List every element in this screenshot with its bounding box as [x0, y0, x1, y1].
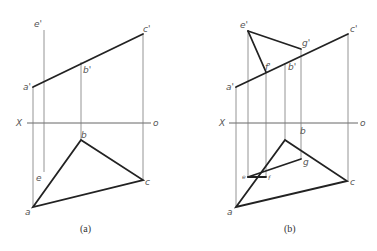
label-f-prime: f' [265, 62, 271, 72]
label-c-prime: c' [350, 24, 357, 34]
projection-diagram: X o e' c' b' a' b c a e (a) X o [0, 0, 377, 251]
label-b-prime: b' [288, 62, 296, 72]
label-c-prime: c' [143, 24, 150, 34]
panel-b: X o e' g' c' f' b' a' b g e f c a (b) [218, 20, 366, 235]
label-g: g [303, 157, 309, 167]
label-g-prime: g' [302, 38, 310, 48]
caption-a: (a) [80, 223, 91, 235]
label-e-prime: e' [240, 20, 248, 30]
x-axis-label: X [218, 118, 226, 128]
label-c: c [350, 177, 355, 187]
label-e: e [242, 173, 246, 180]
label-c: c [145, 177, 150, 187]
line-e-prime-g-prime [248, 31, 301, 49]
label-a-prime: a' [23, 82, 31, 92]
caption-b: (b) [284, 223, 296, 235]
panel-a: X o e' c' b' a' b c a e (a) [15, 19, 159, 235]
label-a-prime: a' [226, 82, 234, 92]
triangle-abc [236, 140, 347, 207]
x-axis-label: X [15, 118, 23, 128]
label-a: a [25, 207, 31, 217]
label-b: b [81, 130, 87, 140]
triangle-abc [33, 140, 143, 207]
label-f: f [268, 174, 271, 181]
label-e-prime: e' [34, 19, 42, 29]
label-e: e [36, 173, 42, 183]
label-b-prime: b' [83, 65, 91, 75]
label-b: b [300, 126, 306, 136]
line-e-g [248, 159, 301, 177]
line-a-prime-c-prime [33, 34, 143, 87]
o-axis-label: o [153, 118, 159, 128]
line-e-prime-f-prime [248, 31, 266, 72]
o-axis-label: o [360, 118, 366, 128]
label-a: a [227, 207, 233, 217]
